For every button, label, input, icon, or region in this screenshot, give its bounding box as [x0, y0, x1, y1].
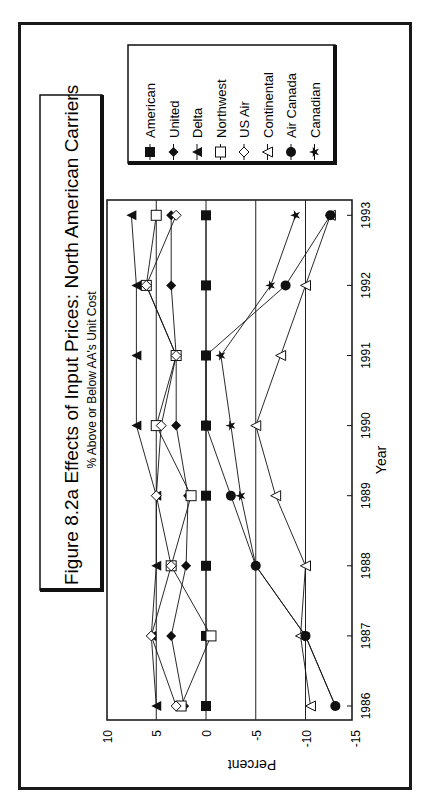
filled-square-marker-icon: [201, 280, 211, 290]
x-tick-label: 1991: [359, 342, 373, 369]
legend: [128, 45, 335, 163]
chart: Figure 8.2a Effects of Input Prices: Nor…: [0, 0, 438, 810]
y-tick-label: 5: [150, 730, 164, 737]
filled-square-marker-icon: [201, 561, 211, 571]
x-tick-label: 1986: [359, 692, 373, 719]
x-tick-label: 1989: [359, 482, 373, 509]
legend-label-air-canada: Air Canada: [284, 72, 299, 138]
chart-title: Figure 8.2a Effects of Input Prices: Nor…: [61, 85, 82, 585]
legend-label-us-air: US Air: [237, 100, 252, 138]
filled-circle-marker-icon: [201, 351, 211, 361]
x-tick-label: 1988: [359, 552, 373, 579]
legend-label-continental: Continental: [261, 72, 276, 138]
x-tick-label: 1990: [359, 412, 373, 439]
x-tick-label: 1987: [359, 622, 373, 649]
legend-label-united: United: [167, 100, 182, 138]
y-tick-label: 10: [101, 730, 115, 744]
filled-square-marker-icon: [145, 147, 155, 157]
plot-area: [107, 200, 352, 720]
legend-label-northwest: Northwest: [214, 79, 229, 138]
chart-subtitle: % Above or Below AA's Unit Cost: [85, 291, 99, 469]
y-tick-label: 0: [200, 730, 214, 737]
open-square-marker-icon: [151, 210, 161, 220]
open-square-marker-icon: [206, 631, 216, 641]
y-tick-label: -5: [250, 730, 264, 741]
legend-label-canadian: Canadian: [308, 82, 323, 138]
x-tick-label: 1992: [359, 272, 373, 299]
open-square-marker-icon: [186, 491, 196, 501]
filled-square-marker-icon: [201, 210, 211, 220]
filled-circle-marker-icon: [325, 210, 335, 220]
filled-square-marker-icon: [201, 701, 211, 711]
x-tick-label: 1993: [359, 202, 373, 229]
legend-label-american: American: [143, 83, 158, 138]
filled-circle-marker-icon: [281, 280, 291, 290]
y-tick-label: -15: [349, 730, 363, 748]
filled-square-marker-icon: [201, 491, 211, 501]
y-axis-label: Percent: [228, 757, 276, 773]
y-tick-label: -10: [300, 730, 314, 748]
x-axis-label: Year: [373, 446, 389, 475]
filled-circle-marker-icon: [226, 491, 236, 501]
legend-label-delta: Delta: [190, 107, 205, 138]
filled-circle-marker-icon: [201, 421, 211, 431]
open-square-marker-icon: [216, 147, 226, 157]
filled-circle-marker-icon: [286, 147, 296, 157]
